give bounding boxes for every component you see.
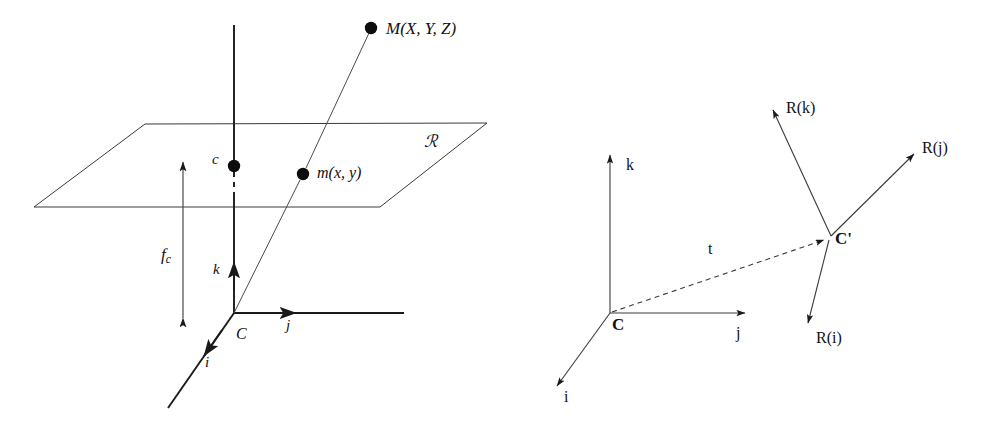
focal-length-label: fc bbox=[161, 246, 171, 266]
rotated-axis-k-line bbox=[773, 110, 831, 236]
focal-length-subscript: c bbox=[166, 252, 171, 266]
left-axis-i-label: i bbox=[205, 355, 209, 370]
projection-ray-lower bbox=[234, 180, 300, 313]
principal-point-dot bbox=[228, 160, 240, 172]
right-axis-k-label: k bbox=[626, 157, 634, 173]
left-axis-j-label: j bbox=[286, 318, 290, 333]
rotated-axis-j-line bbox=[831, 154, 914, 236]
world-point-dot bbox=[365, 22, 377, 34]
image-plane-parallelogram bbox=[34, 123, 487, 207]
right-axis-i-label: i bbox=[564, 389, 568, 405]
axis-i-line bbox=[168, 313, 234, 408]
principal-point-label: c bbox=[212, 152, 219, 167]
right-origin-transformed-label: C' bbox=[835, 230, 852, 247]
projection-ray-upper bbox=[306, 33, 369, 168]
translation-label: t bbox=[708, 241, 712, 257]
world-point-label: M(X, Y, Z) bbox=[386, 20, 456, 37]
right-axis-j-label: j bbox=[736, 325, 740, 341]
image-point-dot bbox=[297, 168, 309, 180]
axis-i-arrow bbox=[204, 330, 222, 356]
image-point-label: m(x, y) bbox=[317, 165, 361, 181]
rotated-axis-i-label: R(i) bbox=[816, 330, 842, 346]
left-axis-k-label: k bbox=[213, 262, 220, 277]
translation-vector-dashed bbox=[612, 240, 824, 312]
left-diagram-group bbox=[34, 22, 487, 408]
right-axis-i-line bbox=[557, 313, 610, 386]
diagram-canvas bbox=[0, 0, 986, 427]
right-diagram-group bbox=[557, 110, 914, 386]
figure-root: M(X, Y, Z) m(x, y) c ℛ fc k j i C k j i … bbox=[0, 0, 986, 427]
rotated-axis-i-line bbox=[808, 240, 829, 323]
right-origin-label: C bbox=[612, 316, 624, 333]
rotated-axis-k-label: R(k) bbox=[786, 100, 815, 116]
left-origin-label: C bbox=[236, 326, 247, 342]
image-plane-label: ℛ bbox=[424, 133, 438, 150]
rotated-axis-j-label: R(j) bbox=[922, 140, 948, 156]
